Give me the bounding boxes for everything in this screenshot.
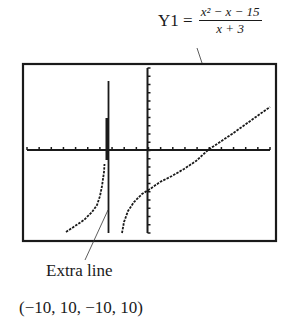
graph	[0, 0, 289, 335]
screen-frame	[23, 64, 276, 241]
extra-line-label: Extra line	[46, 261, 113, 281]
window-label: (−10, 10, −10, 10)	[19, 298, 143, 318]
extra-line-thick	[106, 118, 110, 160]
